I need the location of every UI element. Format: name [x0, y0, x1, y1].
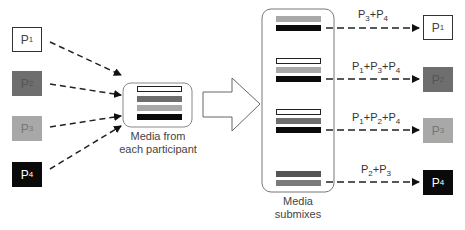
- submix2-bar-p1: [276, 58, 321, 64]
- submix1-bar-p4: [276, 25, 321, 31]
- submix3-bar-p2: [276, 118, 321, 124]
- p2-to-collector-arrow: [50, 84, 121, 95]
- block-arrow-right-icon: [203, 78, 260, 131]
- collector-bar-p1: [137, 86, 182, 92]
- participant-p2-destination: P2: [423, 67, 453, 92]
- submix2-bar-p4: [276, 76, 321, 82]
- collector-bar-p2: [137, 96, 182, 102]
- participant-p1-destination: P1: [423, 15, 453, 40]
- submix3-bar-p1: [276, 109, 321, 115]
- collector-bar-p3: [137, 105, 182, 111]
- participant-p3-source: P3: [12, 116, 42, 141]
- submix4-bar-p2: [276, 171, 321, 177]
- mix-label-3: P1+P2+P4: [352, 111, 400, 126]
- p3-to-collector-arrow: [50, 116, 121, 127]
- submix1-bar-p3: [276, 16, 321, 22]
- participant-p3-destination: P3: [423, 118, 453, 143]
- p4-to-collector-arrow: [50, 126, 121, 169]
- participant-p4-destination: P4: [423, 170, 453, 195]
- submix3-bar-p4: [276, 127, 321, 133]
- mix-label-2: P1+P3+P4: [352, 60, 400, 75]
- participant-p1-source: P1: [12, 27, 42, 52]
- collector-caption: Media from each participant: [118, 130, 198, 156]
- mix-label-4: P2+P3: [361, 163, 391, 178]
- p1-to-collector-arrow: [50, 42, 121, 75]
- submix-caption: Media submixes: [258, 195, 338, 221]
- submix-box: [262, 9, 334, 192]
- participant-p2-source: P2: [12, 71, 42, 96]
- participant-p4-source: P4: [12, 162, 42, 187]
- collector-bar-p4: [137, 114, 182, 120]
- mix-label-1: P3+P4: [358, 8, 388, 23]
- submix2-bar-p3: [276, 67, 321, 73]
- submix4-bar-p3: [276, 180, 321, 186]
